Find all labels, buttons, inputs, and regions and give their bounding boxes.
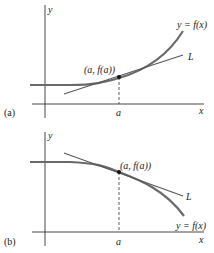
panel-label: (b) bbox=[4, 236, 16, 248]
curve-concave-up bbox=[30, 31, 183, 85]
x-axis-label: x bbox=[198, 105, 204, 116]
panel-label: (a) bbox=[4, 107, 15, 119]
tangent-line-L bbox=[64, 55, 183, 94]
tick-label-a: a bbox=[116, 107, 121, 118]
panel-a: y x a (a) y = f(x) L (a, f(a)) bbox=[4, 4, 208, 119]
y-axis-label: y bbox=[47, 4, 53, 15]
tangent-point bbox=[117, 75, 121, 79]
point-label: (a, f(a)) bbox=[120, 160, 152, 172]
curve-concave-down bbox=[30, 162, 184, 216]
x-axis-label: x bbox=[198, 234, 204, 245]
curve-label: y = f(x) bbox=[176, 19, 208, 31]
y-axis-label: y bbox=[47, 130, 53, 141]
curve-label: y = f(x) bbox=[175, 220, 207, 232]
tangent-label: L bbox=[185, 191, 192, 202]
tangent-label: L bbox=[187, 51, 194, 62]
tick-label-a: a bbox=[116, 236, 121, 247]
point-label: (a, f(a)) bbox=[84, 64, 116, 76]
panel-b: y x a (b) y = f(x) L (a, f(a)) bbox=[4, 130, 207, 248]
tangent-line-diagram: y x a (a) y = f(x) L (a, f(a)) y x a (b)… bbox=[0, 0, 214, 253]
